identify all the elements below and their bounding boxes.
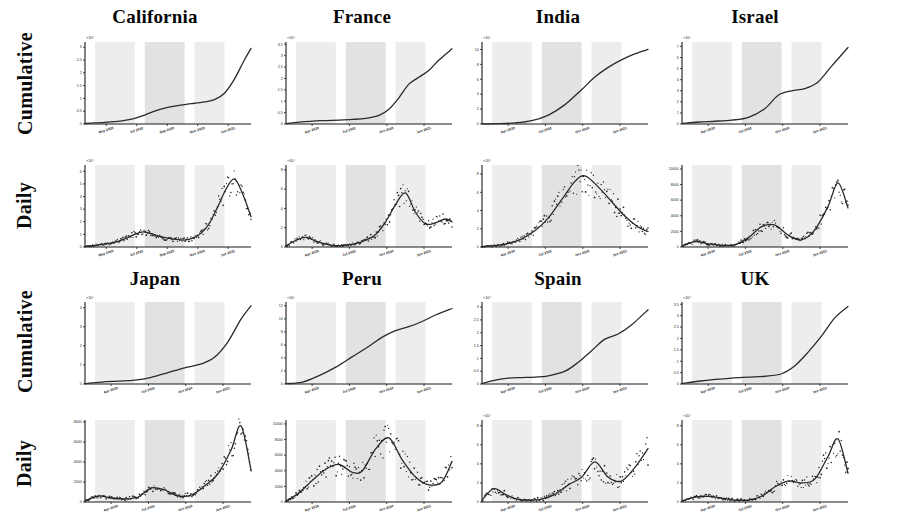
data-point <box>447 220 449 222</box>
data-point <box>90 245 91 246</box>
data-point <box>515 498 516 499</box>
panel-title-california: California <box>55 6 255 28</box>
data-point <box>355 468 357 470</box>
panel-uk-cumulative: ×10⁶00.511.522.533.5Apr 2020Jul 2020Oct … <box>652 292 852 402</box>
y-tick-label: 6 <box>677 443 679 447</box>
data-point <box>324 462 326 464</box>
data-point <box>306 488 308 490</box>
shaded-period-band <box>95 165 135 247</box>
data-point <box>709 494 710 495</box>
data-point <box>194 238 195 239</box>
x-tick-label: Jul 2020 <box>141 386 155 394</box>
x-tick-label: Jan 2021 <box>812 126 827 134</box>
data-point <box>750 238 751 239</box>
data-point <box>408 190 410 192</box>
data-point <box>436 216 437 217</box>
data-point <box>773 491 774 492</box>
data-point <box>704 495 705 496</box>
data-point <box>321 243 322 244</box>
data-point <box>835 456 836 457</box>
data-point <box>244 193 245 194</box>
x-tick-label: Jan 2021 <box>220 249 235 257</box>
data-point <box>298 239 299 240</box>
data-point <box>787 475 788 476</box>
data-point <box>547 497 548 498</box>
data-point <box>218 467 219 468</box>
x-tick-label: Jul 2020 <box>129 126 143 134</box>
data-point <box>834 442 836 444</box>
data-point <box>410 472 412 474</box>
data-point <box>417 472 418 473</box>
data-point <box>485 494 486 495</box>
data-point <box>364 464 365 465</box>
data-point <box>103 244 104 245</box>
y-tick-label: 2 <box>80 71 82 75</box>
y-tick-label: 1 <box>677 360 679 364</box>
data-point <box>846 461 848 463</box>
data-point <box>120 497 121 498</box>
data-point <box>408 476 409 477</box>
x-tick-label: Oct 2020 <box>178 386 193 394</box>
x-tick-label: May 2020 <box>98 126 114 135</box>
data-point <box>612 201 613 202</box>
data-point <box>150 489 151 490</box>
data-point <box>559 489 560 490</box>
data-point <box>811 232 812 233</box>
data-point <box>824 214 825 215</box>
data-point <box>641 226 643 228</box>
data-point <box>313 241 315 243</box>
data-point <box>213 214 214 215</box>
data-point <box>345 460 347 462</box>
data-point <box>591 172 592 173</box>
data-point <box>393 199 394 200</box>
data-point <box>362 462 363 463</box>
data-point <box>737 243 738 244</box>
data-point <box>387 425 388 426</box>
y-tick-label: 1.5 <box>674 348 679 352</box>
data-point <box>521 236 522 237</box>
y-tick-label: 4 <box>281 356 283 360</box>
y-tick-label: 0 <box>281 382 283 386</box>
data-point <box>119 497 120 498</box>
data-point <box>715 243 717 245</box>
data-point <box>550 219 552 221</box>
data-point <box>178 494 179 495</box>
data-point <box>594 468 596 470</box>
data-point <box>388 214 390 216</box>
data-point <box>807 483 809 485</box>
data-point <box>755 229 757 231</box>
shaded-period-band <box>396 420 426 502</box>
data-point <box>180 238 181 239</box>
data-point <box>305 234 306 235</box>
data-point <box>419 484 421 486</box>
data-point <box>610 482 612 484</box>
data-point <box>379 440 381 442</box>
data-point <box>562 202 563 203</box>
data-point <box>431 222 432 223</box>
data-point <box>633 471 635 473</box>
data-point <box>320 471 321 472</box>
data-point <box>597 183 598 184</box>
data-point <box>220 200 221 201</box>
data-point <box>636 453 637 454</box>
data-point <box>131 232 133 234</box>
data-point <box>299 236 300 237</box>
data-point <box>97 497 98 498</box>
data-point <box>223 456 225 458</box>
y-tick-label: 0.5 <box>674 371 679 375</box>
plot-spain-daily: ×10⁴02468Apr 2020Jul 2020Oct 2020Jan 202… <box>452 410 652 520</box>
data-point <box>758 230 760 232</box>
data-point <box>638 455 639 456</box>
x-tick-label: Jan 2021 <box>215 386 230 394</box>
data-point <box>554 200 556 202</box>
data-point <box>779 485 780 486</box>
data-point <box>209 225 210 226</box>
data-point <box>383 430 384 431</box>
data-point <box>236 194 237 195</box>
y-tick-label: 6 <box>281 343 283 347</box>
y-tick-label: 8000 <box>275 438 283 442</box>
data-point <box>328 460 330 462</box>
data-point <box>129 496 131 498</box>
data-point <box>618 212 620 214</box>
data-point <box>699 240 700 241</box>
